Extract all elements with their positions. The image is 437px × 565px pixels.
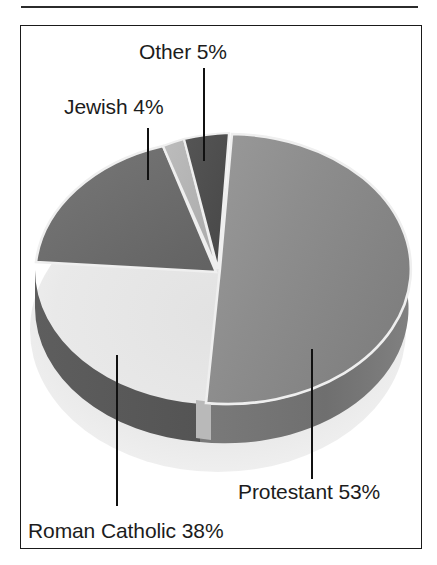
page-root: Other 5% Jewish 4% Protestant 53% Roman … [0, 0, 437, 565]
header-divider-rule [21, 6, 418, 8]
pie-label-jewish: Jewish 4% [64, 95, 163, 119]
pie-label-other: Other 5% [139, 40, 227, 64]
pie-label-protestant: Protestant 53% [238, 480, 380, 504]
pie-label-roman-catholic: Roman Catholic 38% [28, 519, 223, 543]
